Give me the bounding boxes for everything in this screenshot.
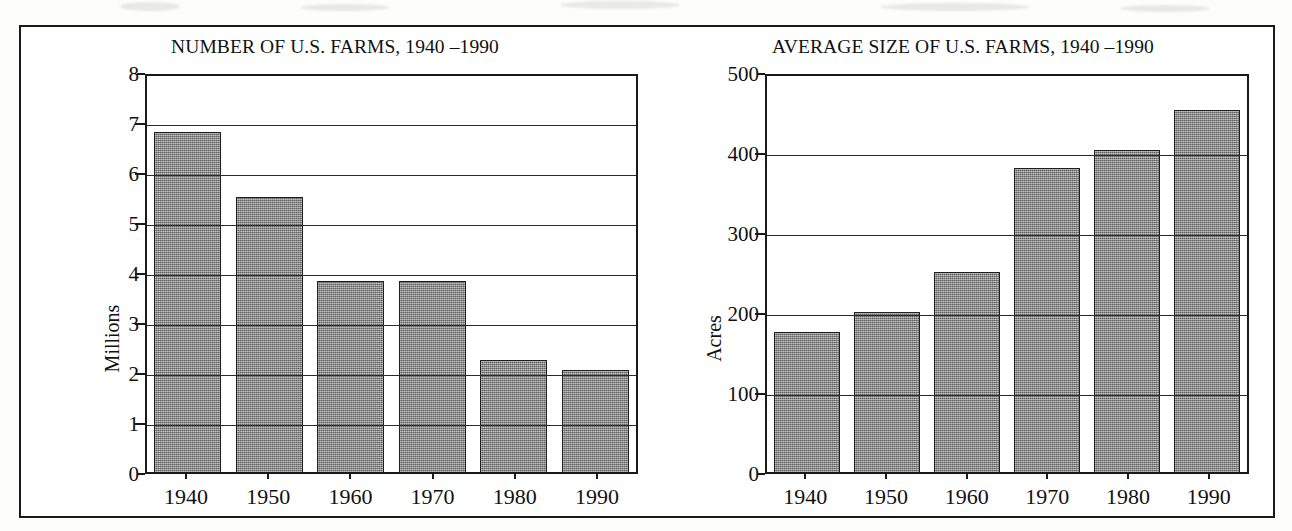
y-tick-mark	[755, 233, 765, 235]
x-tick-label-1940: 1940	[783, 484, 827, 510]
x-tick-label-1960: 1960	[945, 484, 989, 510]
y-tick-label: 200	[649, 302, 759, 327]
bar-1950	[236, 197, 303, 472]
x-tick-label-1990: 1990	[575, 484, 619, 510]
plot-area-right	[765, 74, 1249, 474]
y-tick-label: 6	[21, 162, 139, 187]
bar-1970	[399, 281, 466, 473]
y-tick-label: 5	[21, 212, 139, 237]
figure-outer-frame: NUMBER OF U.S. FARMS, 1940 –1990 Million…	[19, 25, 1275, 518]
x-tick-mark	[596, 472, 598, 479]
gridline	[147, 175, 636, 176]
bar-slot	[147, 76, 229, 472]
y-tick-mark	[135, 273, 145, 275]
bar-slot	[555, 76, 637, 472]
gridline	[767, 315, 1247, 316]
bar-slot	[1087, 76, 1167, 472]
y-tick-mark	[755, 153, 765, 155]
chart-title-right: AVERAGE SIZE OF U.S. FARMS, 1940 –1990	[649, 36, 1277, 58]
chart-number-of-farms: NUMBER OF U.S. FARMS, 1940 –1990 Million…	[21, 27, 649, 516]
y-tick-label: 300	[649, 222, 759, 247]
scan-artifact	[120, 2, 180, 11]
y-tick-mark	[135, 373, 145, 375]
y-tick-label: 0	[649, 462, 759, 487]
scan-artifact	[1120, 5, 1210, 12]
bar-slot	[767, 76, 847, 472]
x-tick-mark	[966, 472, 968, 479]
y-tick-label: 4	[21, 262, 139, 287]
x-tick-mark	[1208, 472, 1210, 479]
gridline	[147, 225, 636, 226]
bar-series-right	[767, 76, 1247, 472]
y-tick-label: 500	[649, 62, 759, 87]
bar-slot	[310, 76, 392, 472]
scanned-page: NUMBER OF U.S. FARMS, 1940 –1990 Million…	[0, 0, 1292, 531]
bar-slot	[1007, 76, 1087, 472]
bar-series-left	[147, 76, 636, 472]
chart-average-size-of-farms: AVERAGE SIZE OF U.S. FARMS, 1940 –1990 A…	[649, 27, 1277, 516]
chart-title-left: NUMBER OF U.S. FARMS, 1940 –1990	[21, 36, 649, 58]
x-tick-mark	[1127, 472, 1129, 479]
x-tick-label-1980: 1980	[1106, 484, 1150, 510]
bar-1960	[317, 281, 384, 473]
gridline	[767, 235, 1247, 236]
gridline	[147, 125, 636, 126]
bar-1960	[934, 272, 1000, 472]
x-tick-mark	[1046, 472, 1048, 479]
x-tick-label-1950: 1950	[246, 484, 290, 510]
x-tick-label-1940: 1940	[164, 484, 208, 510]
bar-1950	[854, 312, 920, 472]
y-tick-label: 8	[21, 62, 139, 87]
y-tick-mark	[755, 393, 765, 395]
bar-slot	[847, 76, 927, 472]
bar-slot	[229, 76, 311, 472]
gridline	[147, 425, 636, 426]
y-tick-label: 0	[21, 462, 139, 487]
y-tick-mark	[135, 173, 145, 175]
y-tick-mark	[755, 313, 765, 315]
y-tick-mark	[135, 423, 145, 425]
y-tick-mark	[137, 473, 145, 475]
y-tick-mark	[757, 73, 765, 75]
gridline	[147, 375, 636, 376]
x-tick-label-1970: 1970	[411, 484, 455, 510]
bar-slot	[392, 76, 474, 472]
x-tick-label-1950: 1950	[864, 484, 908, 510]
x-tick-mark	[432, 472, 434, 479]
scan-artifact	[300, 4, 390, 11]
bar-slot	[927, 76, 1007, 472]
gridline	[767, 395, 1247, 396]
bar-1940	[154, 132, 221, 472]
bar-1940	[774, 332, 840, 472]
y-tick-label: 2	[21, 362, 139, 387]
scan-artifact	[560, 1, 680, 9]
plot-area-left	[145, 74, 638, 474]
x-tick-label-1980: 1980	[493, 484, 537, 510]
x-tick-label-1970: 1970	[1025, 484, 1069, 510]
x-tick-mark	[267, 472, 269, 479]
gridline	[147, 325, 636, 326]
x-tick-mark	[804, 472, 806, 479]
y-tick-mark	[135, 223, 145, 225]
y-tick-label: 1	[21, 412, 139, 437]
bar-1990	[1174, 110, 1240, 472]
y-tick-label: 400	[649, 142, 759, 167]
x-tick-label-1990: 1990	[1187, 484, 1231, 510]
y-tick-mark	[135, 123, 145, 125]
bar-1980	[480, 360, 547, 473]
bar-1970	[1014, 168, 1080, 472]
y-tick-mark	[757, 473, 765, 475]
x-tick-mark	[349, 472, 351, 479]
x-tick-mark	[885, 472, 887, 479]
bar-slot	[473, 76, 555, 472]
x-tick-label-1960: 1960	[328, 484, 372, 510]
y-tick-mark	[137, 73, 145, 75]
bar-1980	[1094, 150, 1160, 472]
y-tick-label: 3	[21, 312, 139, 337]
x-tick-mark	[514, 472, 516, 479]
bar-slot	[1167, 76, 1247, 472]
scan-artifact	[880, 3, 1030, 11]
y-tick-mark	[135, 323, 145, 325]
gridline	[147, 275, 636, 276]
bar-1990	[562, 370, 629, 473]
